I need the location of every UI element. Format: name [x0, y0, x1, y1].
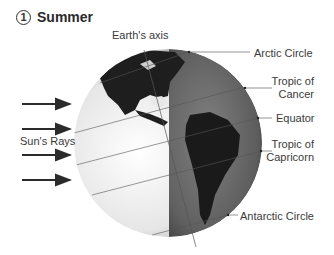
equator-label: Equator — [276, 112, 315, 125]
antarctic-circle-label: Antarctic Circle — [240, 210, 314, 223]
tropic-of-cancer-label: Tropic of Cancer — [272, 75, 314, 101]
tropic-of-capricorn-label: Tropic of Capricorn — [266, 138, 314, 164]
earth-axis-label: Earth's axis — [112, 29, 169, 42]
suns-rays-label: Sun's Rays — [20, 135, 75, 148]
arctic-circle-label: Arctic Circle — [254, 47, 313, 60]
